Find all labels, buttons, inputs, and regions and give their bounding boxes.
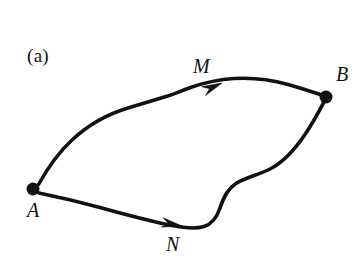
path-label-N: N [166, 234, 179, 254]
upper-path-M [39, 78, 322, 184]
lower-path-N [39, 101, 325, 228]
path-diagram-svg [0, 0, 364, 269]
panel-label: (a) [27, 46, 49, 65]
node-label-B: B [336, 64, 348, 84]
node-label-A: A [27, 200, 39, 220]
figure-panel-a: (a) A B M N [0, 0, 364, 269]
node-point-B [320, 91, 333, 104]
node-point-A [27, 183, 40, 196]
path-label-M: M [193, 56, 210, 76]
